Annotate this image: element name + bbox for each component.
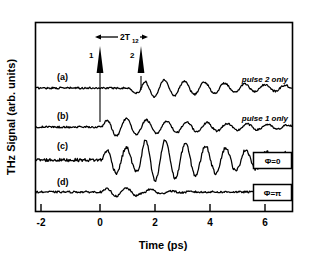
x-tick-label-3: 4 <box>207 217 213 228</box>
pulse-1-label: 1 <box>89 51 94 60</box>
trace-label-d: (d) <box>57 177 69 187</box>
x-tick-label-0: -2 <box>37 217 46 228</box>
phase-zero-text: Φ=0 <box>265 157 281 166</box>
trace-label-a: (a) <box>57 72 68 82</box>
trace-label-c: (c) <box>57 141 68 151</box>
x-tick-label-1: 0 <box>97 217 103 228</box>
thz-signal-figure: -2 0 2 4 6 Time (ps) THz Signal (arb. un… <box>0 0 314 270</box>
figure-background <box>0 0 314 270</box>
x-axis-title: Time (ps) <box>139 239 188 251</box>
pulse-2-label: 2 <box>130 51 135 60</box>
figure-canvas: -2 0 2 4 6 Time (ps) THz Signal (arb. un… <box>0 0 314 270</box>
phase-label-pi: Φ=π <box>254 185 292 201</box>
annotation-pulse-2-only: pulse 2 only <box>241 75 289 84</box>
trace-label-b: (b) <box>57 111 69 121</box>
phase-pi-text: Φ=π <box>264 189 281 198</box>
x-tick-label-4: 6 <box>262 217 268 228</box>
interval-label-sub: 12 <box>132 38 139 44</box>
x-tick-label-2: 2 <box>152 217 158 228</box>
y-axis-title: THz Signal (arb. units) <box>5 59 17 175</box>
interval-label-main: 2T <box>120 32 131 42</box>
phase-label-zero: Φ=0 <box>254 153 292 169</box>
annotation-pulse-1-only: pulse 1 only <box>241 114 289 123</box>
